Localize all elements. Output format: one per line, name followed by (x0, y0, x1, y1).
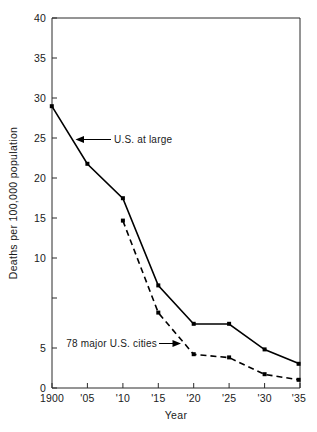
y-tick-label: 20 (34, 172, 46, 184)
data-point (50, 104, 54, 108)
data-point (192, 352, 196, 356)
y-axis-title: Deaths per 100,000 population (7, 127, 19, 279)
x-tick-label: '30 (257, 392, 271, 404)
y-tick-label: 10 (34, 252, 46, 264)
data-point (227, 355, 231, 359)
series-line-dashed (123, 221, 300, 380)
annotation-us-at-large: U.S. at large (76, 134, 173, 145)
annotation-78-major-us-cities: 78 major U.S. cities (66, 338, 181, 349)
data-point (227, 322, 231, 326)
x-tick-marks (52, 383, 300, 388)
series-78-major-us-cities (121, 219, 301, 382)
y-tick-label: 35 (34, 52, 46, 64)
y-tick-label: 5 (40, 342, 46, 354)
annotation-arrowhead-icon (173, 340, 182, 347)
y-tick-label: 25 (34, 132, 46, 144)
data-point (156, 311, 160, 315)
data-point (192, 322, 196, 326)
data-point (263, 372, 267, 376)
data-point (156, 283, 160, 287)
annotation-arrowhead-icon (76, 136, 85, 143)
series-markers-dashed (121, 219, 301, 382)
data-point (85, 162, 89, 166)
x-tick-label: 1900 (40, 392, 64, 404)
x-tick-label: '10 (116, 392, 130, 404)
annotation-label-cities: 78 major U.S. cities (66, 338, 157, 349)
x-tick-label: '05 (80, 392, 94, 404)
y-tick-label: 15 (34, 212, 46, 224)
x-tick-label: '15 (151, 392, 165, 404)
series-us-at-large (50, 104, 301, 366)
y-tick-label: 40 (34, 12, 46, 24)
x-tick-label: '25 (222, 392, 236, 404)
y-tick-labels: 40 35 30 25 20 15 10 5 0 (34, 12, 46, 394)
y-tick-marks (52, 18, 57, 388)
x-tick-label: '35 (292, 392, 306, 404)
data-point (121, 196, 125, 200)
data-point (297, 362, 301, 366)
x-tick-labels: 1900 '05 '10 '15 '20 '25 '30 '35 (40, 392, 306, 404)
data-point (121, 219, 125, 223)
annotation-label-us-at-large: U.S. at large (114, 134, 172, 145)
series-markers-solid (50, 104, 301, 366)
chart-figure: 40 35 30 25 20 15 10 5 0 1900 '05 '10 '1… (0, 0, 317, 432)
x-tick-label: '20 (187, 392, 201, 404)
series-line-solid (52, 106, 300, 364)
line-chart: 40 35 30 25 20 15 10 5 0 1900 '05 '10 '1… (0, 0, 317, 432)
y-tick-label: 30 (34, 92, 46, 104)
data-point (297, 378, 301, 382)
data-point (263, 347, 267, 351)
x-axis-title: Year (165, 409, 188, 421)
